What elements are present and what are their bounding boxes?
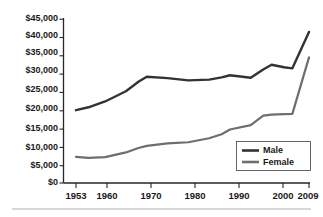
line-chart: $0 $5,000 $10,000 $15,000 $20,000 $25,00… — [0, 0, 323, 217]
x-tick-label: 1990 — [228, 190, 249, 201]
x-tick-label: 1953 — [65, 190, 86, 201]
x-axis-tick-labels: 1953 1960 1970 1980 1990 2000 2009 — [65, 190, 318, 201]
x-tick-label: 2000 — [272, 190, 293, 201]
y-tick-label: $25,000 — [25, 84, 58, 94]
chart-legend[interactable]: Male Female — [237, 142, 311, 171]
plot-area — [76, 32, 309, 158]
y-tick-label: $15,000 — [25, 123, 58, 133]
y-tick-label: $30,000 — [25, 65, 58, 75]
x-tick-label: 1980 — [184, 190, 205, 201]
y-tick-label: $10,000 — [25, 142, 58, 152]
chart-figure: $0 $5,000 $10,000 $15,000 $20,000 $25,00… — [0, 0, 323, 217]
legend-label-female: Female — [263, 157, 294, 167]
y-tick-label: $0 — [48, 177, 58, 187]
y-axis-tick-labels: $0 $5,000 $10,000 $15,000 $20,000 $25,00… — [25, 13, 58, 187]
x-tick-label: 2009 — [297, 190, 318, 201]
x-tick-label: 1960 — [96, 190, 117, 201]
y-tick-label: $5,000 — [30, 160, 58, 170]
y-tick-label: $40,000 — [25, 30, 58, 40]
y-tick-label: $35,000 — [25, 47, 58, 57]
y-tick-label: $45,000 — [25, 13, 58, 23]
x-axis — [64, 183, 311, 188]
x-tick-label: 1970 — [140, 190, 161, 201]
y-axis — [60, 18, 64, 183]
legend-label-male: Male — [263, 145, 283, 155]
y-tick-label: $20,000 — [25, 103, 58, 113]
series-line-male — [76, 32, 309, 110]
